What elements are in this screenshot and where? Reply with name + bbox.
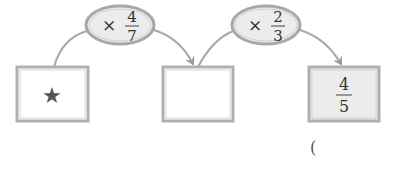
arc-op1-to-box2	[154, 30, 193, 64]
box-result: 4 5	[309, 67, 379, 121]
op1-denominator: 7	[127, 27, 137, 45]
answer-paren: (	[310, 138, 316, 157]
arc-op2-to-box3	[300, 30, 341, 64]
box-middle-blank	[163, 67, 233, 121]
op2-denominator: 3	[273, 27, 283, 45]
op2-numerator: 2	[273, 8, 283, 26]
arc-box1-to-op1	[54, 31, 87, 67]
star-icon: ★	[42, 83, 62, 108]
result-numerator: 4	[339, 75, 349, 94]
multiply-sign: ×	[248, 15, 262, 35]
operation-multiply-2-3: × 2 3	[232, 6, 300, 45]
operation-flow-diagram: ★ 4 5 × 4 7 × 2 3 (	[0, 0, 396, 169]
operation-multiply-4-7: × 4 7	[86, 6, 154, 45]
multiply-sign: ×	[102, 15, 116, 35]
box-start: ★	[17, 67, 88, 121]
result-denominator: 5	[339, 97, 349, 116]
op1-numerator: 4	[127, 8, 137, 26]
arc-box2-to-op2	[198, 31, 233, 67]
